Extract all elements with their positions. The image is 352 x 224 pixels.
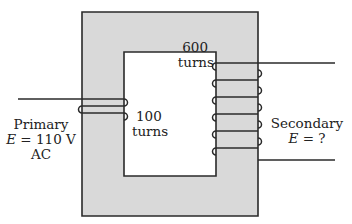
secondary-turns-value: 600 xyxy=(168,40,214,55)
primary-voltage-value: = 110 V xyxy=(20,131,75,147)
primary-voltage-symbol: E xyxy=(6,131,16,147)
secondary-turns-unit: turns xyxy=(168,55,214,70)
secondary-turns-group: 600 turns xyxy=(168,40,214,70)
primary-voltage: E = 110 V xyxy=(2,132,80,147)
secondary-voltage: E = ? xyxy=(262,131,352,146)
primary-label-group: Primary E = 110 V AC xyxy=(2,117,80,162)
secondary-voltage-symbol: E xyxy=(289,130,299,146)
secondary-label: Secondary xyxy=(262,116,352,131)
secondary-label-group: Secondary E = ? xyxy=(262,116,352,146)
primary-turns-group: 100 turns xyxy=(128,109,174,139)
primary-label: Primary xyxy=(2,117,80,132)
primary-turns-value: 100 xyxy=(128,109,174,124)
primary-current-type: AC xyxy=(2,147,80,162)
transformer-diagram xyxy=(0,0,352,224)
secondary-voltage-value: = ? xyxy=(303,130,326,146)
primary-turns-unit: turns xyxy=(128,124,174,139)
